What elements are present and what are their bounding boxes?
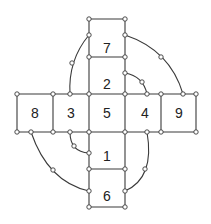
node-circle [123,189,127,193]
node-circle [51,168,55,172]
cell-label-4: 4 [141,105,149,121]
node-circle [123,71,127,75]
cell-label-2: 2 [103,76,111,92]
node-circle [123,130,127,134]
node-circle [72,144,76,148]
node-circle [181,92,185,96]
cell-label-5: 5 [103,105,111,121]
node-circle [194,92,198,96]
node-circle [87,189,91,193]
node-circle [140,80,144,84]
arc-bottom-left-inner [70,132,89,153]
node-circle [145,92,149,96]
node-circle [87,151,91,155]
node-circle [68,92,72,96]
cross-grid-diagram: 728354916 [0,0,211,224]
node-circle [159,55,163,59]
cell-label-7: 7 [103,40,111,56]
cell-label-9: 9 [175,105,183,121]
node-circle [29,130,33,134]
cell-label-1: 1 [103,148,111,164]
node-circle [87,167,91,171]
arc-top-right-outer [125,35,183,94]
node-circle [194,130,198,134]
node-circle [123,33,127,37]
node-circle [15,92,19,96]
node-circle [87,33,91,37]
node-circle [87,17,91,21]
node-circle [87,92,91,96]
node-circle [123,205,127,209]
cell-label-3: 3 [67,105,75,121]
node-circle [123,17,127,21]
node-circle [70,61,74,65]
node-circle [87,130,91,134]
node-circle [143,167,147,171]
node-circle [159,92,163,96]
node-circle [87,205,91,209]
cell-label-6: 6 [103,188,111,204]
node-circle [51,130,55,134]
node-circle [145,130,149,134]
node-circle [68,130,72,134]
node-circle [123,167,127,171]
arc-bottom-right [125,132,149,191]
node-circle [87,55,91,59]
arc-bottom-left-outer [31,132,89,191]
cell-label-8: 8 [31,105,39,121]
node-circle [123,92,127,96]
node-circle [123,55,127,59]
cell-labels: 728354916 [31,40,183,204]
node-circle [51,92,55,96]
node-circle [15,130,19,134]
node-circle [159,130,163,134]
